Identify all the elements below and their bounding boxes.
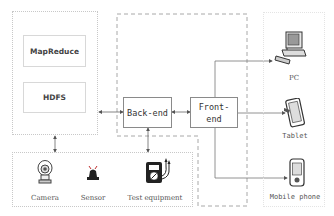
mobile-phone-device: Mobile phone xyxy=(266,158,324,204)
mapreduce-label: MapReduce xyxy=(30,47,79,56)
test-equipment-label: Test equipment xyxy=(125,194,185,202)
frontend-label-line1: Front- xyxy=(199,102,230,112)
camera-label: Camera xyxy=(25,194,65,202)
tablet-icon xyxy=(284,98,306,128)
mobile-phone-icon xyxy=(288,158,306,188)
tablet-device: Tablet xyxy=(270,98,320,144)
mobile-phone-label: Mobile phone xyxy=(266,193,324,201)
frontend-box: Front- end xyxy=(190,97,238,128)
multimeter-icon xyxy=(145,158,173,184)
desktop-computer-icon xyxy=(274,30,308,70)
sensor-label: Sensor xyxy=(78,194,108,202)
hdfs-module: HDFS xyxy=(23,82,86,113)
mapreduce-module: MapReduce xyxy=(23,35,86,67)
test-equipment-device: Test equipment xyxy=(125,158,185,204)
sensor-device: Sensor xyxy=(78,160,108,204)
camera-icon xyxy=(36,160,54,184)
hdfs-label: HDFS xyxy=(43,93,66,102)
backend-box: Back-end xyxy=(123,97,172,128)
cluster-container xyxy=(12,11,98,135)
backend-label: Back-end xyxy=(127,108,168,118)
camera-device: Camera xyxy=(25,160,65,204)
tablet-label: Tablet xyxy=(270,132,320,140)
frontend-label-line2: end xyxy=(206,114,221,124)
pc-label: PC xyxy=(268,74,320,82)
sensor-alarm-icon xyxy=(85,165,101,181)
pc-device: PC xyxy=(268,30,320,84)
